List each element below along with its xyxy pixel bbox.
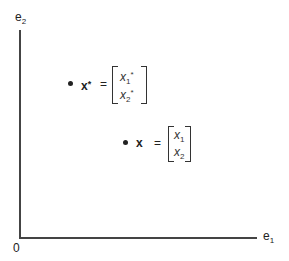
x-star-equals: = [100, 78, 107, 90]
x-c2-sub: 2 [180, 152, 184, 161]
e2-axis-label: e2 [15, 11, 26, 28]
x-star-symbol-sup: * [88, 79, 92, 89]
x-right-bracket [185, 126, 191, 162]
x-symbol-text: x [136, 136, 143, 150]
e2-label-text: e [15, 10, 22, 24]
x-star-right-bracket [141, 66, 147, 104]
e1-label-sub: 1 [270, 236, 274, 245]
x-star-component-2: x2* [120, 87, 134, 106]
x-star-point [68, 81, 73, 86]
e2-axis [19, 30, 21, 238]
e1-axis [19, 237, 257, 239]
x-star-symbol-text: x [81, 79, 88, 93]
e2-label-sub: 2 [22, 17, 26, 26]
e1-label-text: e [263, 229, 270, 243]
origin-label: 0 [13, 242, 20, 254]
e1-axis-label: e1 [263, 230, 274, 247]
x-component-1: x1 [174, 129, 184, 146]
x-point [123, 140, 128, 145]
x-symbol: x [136, 137, 143, 149]
x-star-component-1: x1* [120, 69, 134, 88]
x-equals: = [154, 137, 161, 149]
x-star-c2-sup: * [130, 88, 133, 97]
x-component-2: x2 [174, 146, 184, 163]
x-star-symbol: x* [81, 78, 91, 92]
x-star-left-bracket [112, 66, 118, 104]
x-star-c1-sup: * [130, 70, 133, 79]
x-c1-sub: 1 [180, 135, 184, 144]
